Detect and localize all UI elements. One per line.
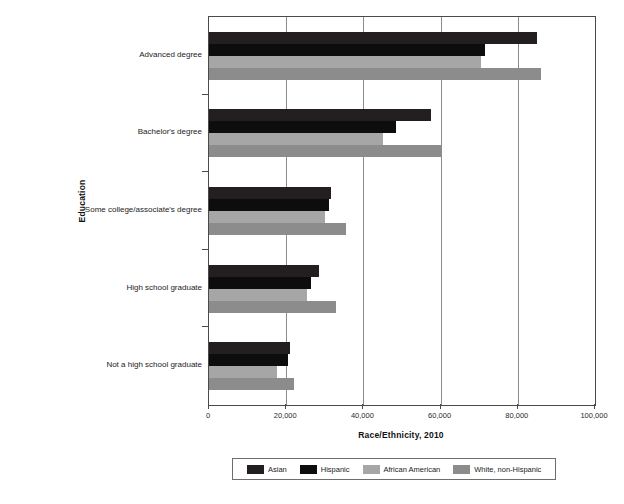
legend-swatch [453, 465, 470, 474]
legend-swatch [247, 465, 264, 474]
legend-swatch [300, 465, 317, 474]
bar [209, 56, 481, 68]
bar [209, 378, 294, 390]
legend-item[interactable]: Hispanic [300, 465, 350, 474]
y-axis-tick-label: Advanced degree [12, 50, 202, 59]
y-axis-tick-label: Some college/associate's degree [12, 205, 202, 214]
bar [209, 133, 383, 145]
bar [209, 289, 307, 301]
bar [209, 32, 537, 44]
bar [209, 109, 431, 121]
y-axis-tick-label: Bachelor's degree [12, 127, 202, 136]
x-axis-tick-mark [362, 404, 363, 409]
x-axis-tick-label: 0 [206, 411, 210, 420]
bar [209, 342, 290, 354]
bar [209, 187, 331, 199]
bar-chart-figure: Education Advanced degreeBachelor's degr… [0, 0, 624, 504]
legend-label: African American [384, 465, 441, 474]
x-axis-tick-label: 20,000 [274, 411, 297, 420]
x-axis-tick-label: 40,000 [351, 411, 374, 420]
x-axis-tick-marks [208, 404, 594, 410]
legend-item[interactable]: Asian [247, 465, 287, 474]
bars-layer [209, 17, 595, 405]
x-axis-tick-mark [285, 404, 286, 409]
x-axis-tick-mark [594, 404, 595, 409]
bar [209, 68, 541, 80]
chart-legend: AsianHispanicAfrican AmericanWhite, non-… [232, 458, 556, 480]
x-axis-title: Race/Ethnicity, 2010 [208, 430, 594, 440]
legend-item[interactable]: White, non-Hispanic [453, 465, 541, 474]
legend-item[interactable]: African American [363, 465, 441, 474]
legend-label: Hispanic [321, 465, 350, 474]
y-axis-tick-labels: Advanced degreeBachelor's degreeSome col… [8, 16, 202, 404]
x-axis-tick-mark [440, 404, 441, 409]
bar [209, 366, 277, 378]
bar [209, 145, 441, 157]
x-axis-tick-mark [517, 404, 518, 409]
y-axis-tick-label: Not a high school graduate [12, 360, 202, 369]
legend-swatch [363, 465, 380, 474]
bar [209, 265, 319, 277]
x-axis-tick-label: 60,000 [428, 411, 451, 420]
x-axis-tick-labels: 020,00040,00060,00080,000100,000 [208, 411, 594, 423]
x-axis-tick-mark [208, 404, 209, 409]
bar [209, 277, 311, 289]
bar [209, 199, 329, 211]
y-axis-tick-label: High school graduate [12, 283, 202, 292]
bar [209, 211, 325, 223]
legend-label: Asian [268, 465, 287, 474]
bar [209, 121, 396, 133]
x-axis-tick-label: 100,000 [580, 411, 607, 420]
bar [209, 301, 336, 313]
legend-label: White, non-Hispanic [474, 465, 541, 474]
plot-area [208, 16, 596, 406]
bar [209, 44, 485, 56]
x-axis-tick-label: 80,000 [505, 411, 528, 420]
bar [209, 223, 346, 235]
bar [209, 354, 288, 366]
